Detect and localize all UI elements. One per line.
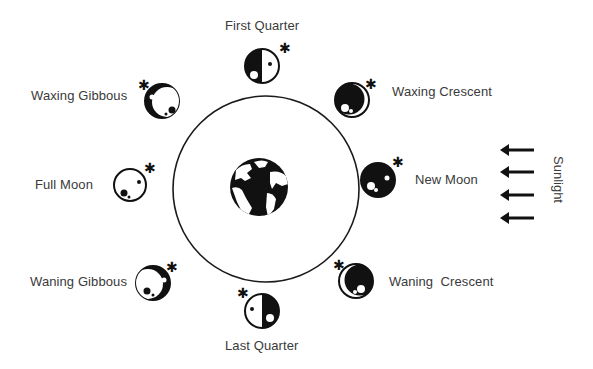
moon-phase-diagram: ✱ ✱ ✱ ✱	[0, 0, 593, 369]
globe-icon	[230, 158, 288, 217]
arrow-left-icon	[500, 144, 534, 156]
label-waning-gibbous: Waning Gibbous	[30, 274, 127, 289]
arrow-left-icon	[500, 189, 534, 201]
label-new-moon: New Moon	[415, 172, 478, 187]
arrow-left-icon	[500, 212, 534, 224]
moon-new-moon-icon: ✱	[360, 154, 404, 198]
label-waxing-crescent: Waxing Crescent	[392, 84, 492, 99]
svg-text:✱: ✱	[138, 77, 150, 93]
svg-text:✱: ✱	[237, 285, 249, 301]
label-sunlight: Sunlight	[551, 156, 566, 203]
moon-waning-gibbous-icon: ✱	[133, 259, 178, 300]
svg-text:✱: ✱	[365, 76, 377, 92]
label-waxing-gibbous: Waxing Gibbous	[31, 88, 127, 103]
label-waning-crescent: Waning Crescent	[389, 274, 493, 289]
label-full-moon: Full Moon	[35, 177, 93, 192]
svg-text:✱: ✱	[279, 40, 291, 56]
svg-text:✱: ✱	[166, 259, 178, 275]
moon-waning-crescent-icon: ✱	[333, 257, 376, 298]
arrow-left-icon	[500, 166, 534, 178]
svg-text:✱: ✱	[144, 160, 156, 176]
moon-waxing-crescent-icon: ✱	[334, 76, 377, 117]
label-first-quarter: First Quarter	[225, 18, 299, 33]
label-last-quarter: Last Quarter	[225, 338, 298, 353]
svg-text:✱: ✱	[392, 154, 404, 170]
moon-first-quarter-icon: ✱	[245, 40, 291, 83]
moon-last-quarter-icon: ✱	[237, 285, 279, 328]
moon-waxing-gibbous-icon: ✱	[138, 77, 182, 118]
moon-full-moon-icon: ✱	[114, 160, 156, 201]
sunlight-arrows	[500, 144, 534, 224]
svg-text:✱: ✱	[333, 257, 345, 273]
